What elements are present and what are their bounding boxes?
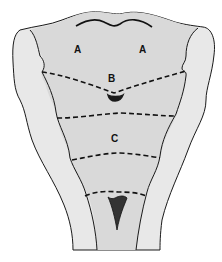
diagram-canvas xyxy=(0,0,222,262)
label-b: B xyxy=(108,74,115,84)
label-c: C xyxy=(111,134,118,144)
label-a-right: A xyxy=(139,45,146,55)
label-a-left: A xyxy=(74,45,81,55)
